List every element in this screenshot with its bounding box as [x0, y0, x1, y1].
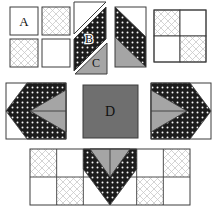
- side-unit-exploded: B C: [74, 2, 107, 74]
- strip-cell-light-print-4: [137, 177, 164, 205]
- four-patch-cell-white-2: [154, 36, 180, 62]
- four-patch-cell-light-print-2: [180, 36, 206, 62]
- label-b: B: [85, 32, 93, 46]
- strip-cell-light-print-2: [163, 149, 190, 177]
- four-patch-exploded: A: [10, 7, 70, 67]
- label-d: D: [105, 104, 115, 119]
- strip-cell-white-2: [137, 149, 164, 177]
- side-unit-assembled: [115, 7, 146, 67]
- arrow-unit-right: [151, 83, 211, 139]
- strip-cell-light-print-3: [57, 177, 84, 205]
- quilt-assembly-diagram: A B C D: [0, 0, 217, 209]
- patch-square-light-print-2: [10, 39, 38, 67]
- center-square-unit: D: [83, 85, 138, 138]
- bottom-row-assembled: [30, 149, 190, 205]
- quilt-assembly-figure: A B C D: [0, 0, 217, 209]
- patch-square-light-print-1: [42, 7, 70, 35]
- patch-square-white-2: [42, 39, 70, 67]
- four-patch-cell-light-print-1: [154, 10, 180, 36]
- strip-cell-white-3: [30, 177, 57, 205]
- label-c: C: [92, 56, 100, 70]
- strip-cell-white-1: [57, 149, 84, 177]
- arrow-unit-left: [6, 83, 66, 139]
- label-a: A: [19, 14, 29, 29]
- strip-cell-white-4: [163, 177, 190, 205]
- strip-cell-light-print-1: [30, 149, 57, 177]
- four-patch-cell-white-1: [180, 10, 206, 36]
- four-patch-assembled: [154, 10, 206, 62]
